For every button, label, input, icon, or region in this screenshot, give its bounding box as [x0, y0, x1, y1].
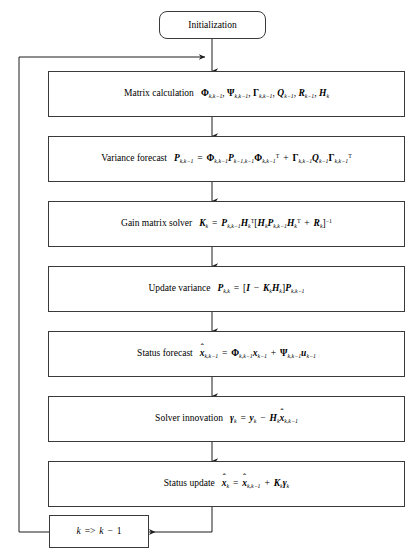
node-solver-innovation-equation: γk = yk − Hk̂xk,k−1	[230, 413, 298, 423]
node-variance-forecast[interactable]: Variance forecastPk,k−1 = Φk,k−1Pk−1,k−1…	[48, 136, 405, 182]
node-solver-innovation[interactable]: Solver innovationγk = yk − Hk̂xk,k−1	[48, 396, 405, 442]
node-status-forecast-equation: ̂xk,k−1 = Φk,k−1xk−1 + Ψk,k−1uk−1	[200, 348, 316, 358]
node-variance-forecast-equation: Pk,k−1 = Φk,k−1Pk−1,k−1Φk,k−1T + Γk,k−1Q…	[174, 153, 352, 163]
node-matrix-calculation-content: Matrix calculationΦk,k−1, Ψk,k−1, Γk,k−1…	[124, 88, 329, 99]
node-status-update[interactable]: Status updatêxk = ̂xk,k−1 + Kkγk	[48, 461, 405, 507]
node-initialization[interactable]: Initialization	[159, 11, 266, 39]
node-update-variance-label: Update variance	[148, 283, 210, 293]
node-status-update-label: Status update	[164, 478, 215, 488]
node-update-variance[interactable]: Update variancePk,k = [I − KkHk]Pk,k−1	[48, 266, 405, 312]
node-initialization-label: Initialization	[188, 20, 237, 31]
node-gain-matrix-solver-content: Gain matrix solverKk = Pk,k−1HkT[HkPk,k−…	[121, 218, 332, 229]
node-update-variance-equation: Pk,k = [I − KkHk]Pk,k−1	[217, 283, 304, 293]
node-matrix-calculation[interactable]: Matrix calculationΦk,k−1, Ψk,k−1, Γk,k−1…	[48, 71, 405, 117]
node-update-variance-content: Update variancePk,k = [I − KkHk]Pk,k−1	[148, 283, 304, 294]
node-solver-innovation-label: Solver innovation	[155, 413, 223, 423]
edge-status-update-to-loop-counter	[149, 507, 212, 532]
node-status-update-content: Status updatêxk = ̂xk,k−1 + Kkγk	[164, 478, 289, 489]
node-matrix-calculation-equation: Φk,k−1, Ψk,k−1, Γk,k−1, Qk−1, Rk−1, Hk	[201, 88, 329, 98]
node-gain-matrix-solver[interactable]: Gain matrix solverKk = Pk,k−1HkT[HkPk,k−…	[48, 201, 405, 247]
node-loop-counter-equation: k => k − 1	[77, 526, 122, 537]
node-status-update-equation: ̂xk = ̂xk,k−1 + Kkγk	[222, 478, 289, 488]
node-solver-innovation-content: Solver innovationγk = yk − Hk̂xk,k−1	[155, 413, 298, 424]
node-status-forecast-label: Status forecast	[137, 348, 193, 358]
node-gain-matrix-solver-equation: Kk = Pk,k−1HkT[HkPk,k−1HkT + Rk]−1	[199, 218, 332, 228]
node-variance-forecast-label: Variance forecast	[101, 153, 167, 163]
node-matrix-calculation-label: Matrix calculation	[124, 88, 194, 98]
node-status-forecast[interactable]: Status forecast̂xk,k−1 = Φk,k−1xk−1 + Ψk…	[48, 331, 405, 377]
node-loop-counter[interactable]: k => k − 1	[49, 515, 149, 548]
node-gain-matrix-solver-label: Gain matrix solver	[121, 218, 192, 228]
node-status-forecast-content: Status forecast̂xk,k−1 = Φk,k−1xk−1 + Ψk…	[137, 348, 316, 359]
flowchart-canvas: Initialization Matrix calculationΦk,k−1,…	[0, 0, 419, 559]
node-variance-forecast-content: Variance forecastPk,k−1 = Φk,k−1Pk−1,k−1…	[101, 153, 351, 164]
